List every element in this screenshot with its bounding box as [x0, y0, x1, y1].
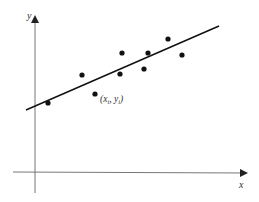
- data-point: [145, 50, 150, 55]
- point-label: (xi, yi): [100, 94, 123, 105]
- data-point: [165, 36, 170, 41]
- data-point: [141, 66, 146, 71]
- scatter-diagram: y x (xi, yi): [0, 0, 259, 202]
- data-point-highlighted: [92, 91, 97, 96]
- data-point: [117, 71, 122, 76]
- data-point: [79, 72, 84, 77]
- x-axis: [13, 172, 246, 173]
- data-point: [45, 100, 50, 105]
- data-point: [119, 50, 124, 55]
- y-axis-label: y: [26, 10, 32, 21]
- x-axis-label: x: [238, 179, 244, 190]
- data-point: [179, 52, 184, 57]
